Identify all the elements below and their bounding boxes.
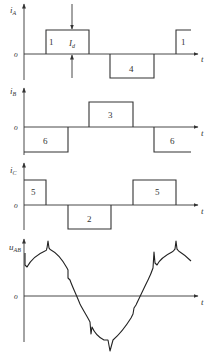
ic-xlabel: t xyxy=(201,206,204,216)
ia-zero-label: o xyxy=(14,50,18,59)
ib-zero-label: o xyxy=(14,123,18,132)
id-label: Id xyxy=(68,38,76,49)
ia-pulse-1b-label: 1 xyxy=(181,37,186,47)
ib-pulse-3-label: 3 xyxy=(108,110,113,120)
uab-ylabel: uAB xyxy=(9,242,21,253)
ia-pulse-1-label: 1 xyxy=(49,37,54,47)
ia-xlabel: t xyxy=(201,54,204,64)
ic-zero-label: o xyxy=(14,201,18,210)
uab-zero-label: o xyxy=(14,292,18,301)
panel-uab: uAB o t xyxy=(9,239,204,351)
panel-ic: iC o t 5 2 5 xyxy=(10,163,204,230)
waveform-diagram: iA o t 1 4 1 Id iB o t 6 3 6 iC o t 5 xyxy=(0,0,211,360)
ib-pulse-6-label: 6 xyxy=(43,136,48,146)
ia-ylabel: iA xyxy=(10,5,17,16)
uab-xlabel: t xyxy=(201,297,204,307)
ib-xlabel: t xyxy=(201,128,204,138)
ic-pulse-5-label: 5 xyxy=(31,187,36,197)
ia-pulse-4-label: 4 xyxy=(129,64,134,74)
ib-ylabel: iB xyxy=(10,86,17,97)
ib-pulse-6b-label: 6 xyxy=(170,136,175,146)
panel-ia: iA o t 1 4 1 Id xyxy=(10,4,204,80)
ic-ylabel: iC xyxy=(10,165,18,176)
ic-pulse-2-label: 2 xyxy=(87,214,92,224)
panel-ib: iB o t 6 3 6 xyxy=(10,86,204,155)
ic-pulse-5b-label: 5 xyxy=(155,187,160,197)
